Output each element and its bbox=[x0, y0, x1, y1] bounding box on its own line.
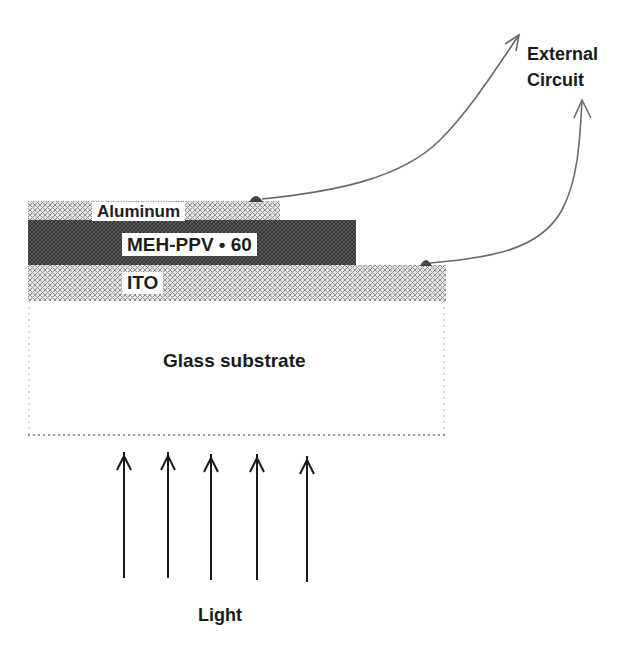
meh-ppv-label: MEH-PPV • 60 bbox=[122, 233, 257, 256]
light-arrow-icon bbox=[161, 452, 175, 578]
glass-substrate-label: Glass substrate bbox=[163, 351, 306, 370]
light-label: Light bbox=[198, 606, 242, 624]
wire-aluminum-to-circuit bbox=[262, 35, 519, 199]
aluminum-contact-icon bbox=[249, 196, 263, 202]
diagram-canvas bbox=[0, 0, 634, 657]
light-arrow-icon bbox=[117, 452, 131, 578]
external-circuit-label-line1: External bbox=[527, 45, 598, 63]
light-arrows bbox=[117, 452, 314, 582]
light-arrow-icon bbox=[300, 456, 314, 582]
ito-layer bbox=[28, 265, 446, 301]
light-arrow-icon bbox=[204, 454, 218, 580]
light-arrow-icon bbox=[250, 454, 264, 580]
external-circuit-label-line2: Circuit bbox=[527, 71, 584, 89]
aluminum-label: Aluminum bbox=[92, 202, 185, 221]
solar-cell-diagram: Aluminum MEH-PPV • 60 ITO Glass substrat… bbox=[0, 0, 634, 657]
ito-label: ITO bbox=[122, 272, 163, 294]
